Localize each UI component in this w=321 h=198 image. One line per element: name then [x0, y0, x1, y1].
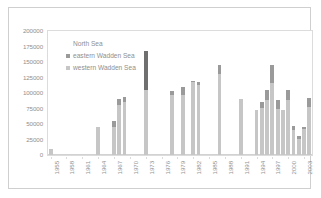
bar-1978[interactable]: [170, 91, 174, 155]
y-axis-tick-label: 200000: [23, 28, 43, 34]
x-axis: 1955195819611964196719701973197619791982…: [48, 157, 312, 191]
bar-2000[interactable]: [286, 90, 290, 155]
bar-segment-west: [292, 130, 296, 155]
x-axis-tick-label: 2000: [291, 161, 297, 174]
bar-segment-west: [270, 83, 274, 155]
bar-segment-east: [181, 87, 185, 95]
legend-item-label: North Sea: [73, 40, 103, 47]
x-axis-tick-mark: [114, 157, 115, 159]
x-axis-tick-label: 1964: [101, 161, 107, 174]
bar-2002[interactable]: [297, 136, 301, 155]
bar-segment-west: [170, 95, 174, 155]
x-axis-tick-label: 1994: [260, 161, 266, 174]
x-axis-tick-label: 1967: [117, 161, 123, 174]
legend-item-north-sea[interactable]: North Sea: [66, 38, 136, 49]
legend-swatch-icon: [66, 54, 70, 58]
x-axis-tick-label: 1958: [69, 161, 75, 174]
bar-segment-west: [197, 85, 201, 155]
bar-1968[interactable]: [117, 99, 121, 155]
bar-segment-west: [297, 139, 301, 155]
x-axis-tick-mark: [272, 157, 273, 159]
bar-segment-west: [302, 129, 306, 155]
legend-item-western-wadden-sea[interactable]: western Wadden Sea: [66, 62, 136, 73]
chart-legend: North Seaeastern Wadden Seawestern Wadde…: [66, 38, 136, 74]
x-axis-tick-mark: [51, 157, 52, 159]
legend-item-eastern-wadden-sea[interactable]: eastern Wadden Sea: [66, 50, 136, 61]
x-axis-tick-label: 1970: [133, 161, 139, 174]
x-axis-tick-mark: [304, 157, 305, 159]
x-axis-tick-mark: [66, 157, 67, 159]
x-axis-tick-mark: [288, 157, 289, 159]
x-axis-tick-label: 1973: [149, 161, 155, 174]
bar-1999[interactable]: [281, 110, 285, 155]
bar-segment-west: [260, 108, 264, 155]
y-axis-tick-label: 0: [40, 152, 43, 158]
bar-segment-west: [218, 74, 222, 155]
bar-1998[interactable]: [276, 100, 280, 155]
x-axis-tick-label: 1982: [196, 161, 202, 174]
bar-segment-west: [144, 90, 148, 155]
bar-2003[interactable]: [302, 126, 306, 155]
bar-2004[interactable]: [307, 98, 311, 155]
bar-segment-east: [286, 90, 290, 101]
bar-segment-west: [265, 100, 269, 155]
bar-segment-west: [112, 127, 116, 155]
bar-1987[interactable]: [218, 65, 222, 155]
y-axis-tick-label: 175000: [23, 43, 43, 49]
x-axis-tick-mark: [82, 157, 83, 159]
x-axis-tick-label: 1988: [228, 161, 234, 174]
x-axis-tick-label: 1979: [180, 161, 186, 174]
x-axis-tick-mark: [225, 157, 226, 159]
y-axis-tick-label: 150000: [23, 59, 43, 65]
bar-segment-north: [144, 51, 148, 90]
bar-segment-west: [281, 110, 285, 155]
bar-segment-west: [96, 127, 100, 155]
bar-1964[interactable]: [96, 127, 100, 155]
x-axis-tick-mark: [209, 157, 210, 159]
x-axis-tick-mark: [257, 157, 258, 159]
chart-outer-frame: 2000001750001500001250001000007500050000…: [8, 7, 311, 189]
bar-1996[interactable]: [265, 90, 269, 155]
bar-1967[interactable]: [112, 121, 116, 155]
bar-1997[interactable]: [270, 65, 274, 155]
bar-1980[interactable]: [181, 87, 185, 155]
bar-1973[interactable]: [144, 51, 148, 155]
bar-1983[interactable]: [197, 82, 201, 155]
x-axis-tick-mark: [98, 157, 99, 159]
bar-1994[interactable]: [255, 110, 259, 155]
x-axis-tick-mark: [193, 157, 194, 159]
y-axis-tick-label: 25000: [26, 136, 43, 142]
y-axis: 2000001750001500001250001000007500050000…: [9, 30, 45, 156]
x-axis-tick-label: 1985: [212, 161, 218, 174]
x-axis-tick-mark: [241, 157, 242, 159]
bar-segment-west: [239, 99, 243, 155]
bar-1995[interactable]: [260, 102, 264, 155]
bar-segment-east: [276, 100, 280, 109]
x-axis-tick-mark: [130, 157, 131, 159]
x-axis-tick-label: 1991: [244, 161, 250, 174]
legend-swatch-icon: [66, 42, 70, 46]
x-axis-tick-label: 1961: [85, 161, 91, 174]
y-axis-tick-label: 50000: [26, 121, 43, 127]
bar-1982[interactable]: [191, 81, 195, 155]
x-axis-tick-mark: [177, 157, 178, 159]
bar-segment-east: [218, 65, 222, 74]
bar-segment-west: [191, 82, 195, 155]
x-axis-tick-mark: [162, 157, 163, 159]
bar-segment-west: [255, 110, 259, 155]
y-axis-tick-label: 75000: [26, 105, 43, 111]
bar-1955[interactable]: [49, 149, 53, 155]
bar-segment-east: [270, 65, 274, 83]
bar-segment-west: [49, 149, 53, 155]
bar-segment-east: [307, 98, 311, 107]
bar-1991[interactable]: [239, 99, 243, 155]
bar-segment-west: [276, 109, 280, 155]
legend-item-label: eastern Wadden Sea: [73, 52, 135, 59]
x-axis-tick-label: 2003: [307, 161, 313, 174]
x-axis-tick-label: 1997: [275, 161, 281, 174]
bar-1969[interactable]: [123, 97, 127, 155]
x-axis-tick-mark: [146, 157, 147, 159]
bar-segment-west: [181, 95, 185, 155]
y-axis-tick-label: 125000: [23, 74, 43, 80]
bar-2001[interactable]: [292, 126, 296, 155]
